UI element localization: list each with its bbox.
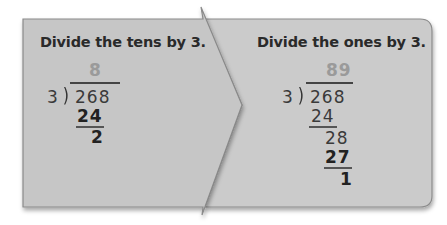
right-step-bring-down: 28 xyxy=(325,129,349,147)
left-panel-title: Divide the tens by 3. xyxy=(40,34,206,50)
right-quotient: 89 xyxy=(326,61,352,79)
right-division-bar xyxy=(306,82,353,84)
left-division-bracket: ) xyxy=(63,85,69,105)
right-dividend: 268 xyxy=(310,88,345,106)
left-step-product: 24 xyxy=(77,107,103,125)
left-divisor: 3 xyxy=(47,88,58,106)
right-step-remainder: 1 xyxy=(340,170,352,188)
right-step-product-1: 24 xyxy=(311,107,335,125)
right-panel-title: Divide the ones by 3. xyxy=(257,34,426,50)
left-quotient: 8 xyxy=(89,61,101,79)
left-dividend: 268 xyxy=(75,88,110,106)
right-division-bracket: ) xyxy=(298,85,304,105)
left-step-remainder: 2 xyxy=(91,128,103,146)
right-step-product-2: 27 xyxy=(325,148,351,166)
long-division-diagram: Divide the tens by 3. 8 3 ) 268 24 2 Div… xyxy=(0,0,447,225)
right-divisor: 3 xyxy=(282,88,293,106)
left-division-bar xyxy=(70,82,120,84)
